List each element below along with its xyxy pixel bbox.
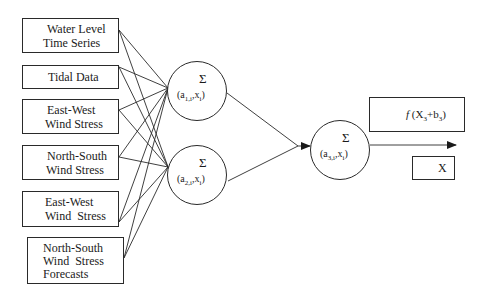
output-label: X [438, 161, 447, 175]
sigma-symbol: Σ [199, 155, 207, 171]
input-tidal-data: Tidal Data [22, 65, 119, 89]
output-node: Σ (a3,i,xi) [310, 120, 370, 180]
sigma-symbol: Σ [342, 130, 350, 146]
input-label: East-West [47, 103, 95, 117]
input-label: Forecasts [43, 267, 88, 281]
hidden-node-1: Σ (a1,i,xi) [167, 61, 227, 121]
input-label: Wind Stress [45, 209, 106, 223]
hidden-node-2: Σ (a2,i,xi) [167, 145, 227, 205]
input-east-west-wind-stress-2: East-West Wind Stress [22, 191, 119, 227]
input-north-south-wind-stress: North-South Wind Stress [22, 145, 119, 180]
activation-function-box: f (X3+b3) [369, 97, 465, 132]
sigma-symbol: Σ [199, 71, 207, 87]
input-water-level: Water Level Time Series [22, 18, 119, 53]
input-label: Wind Stress [45, 117, 103, 131]
input-east-west-wind-stress: East-West Wind Stress [22, 99, 119, 134]
input-label: North-South [47, 149, 107, 163]
input-label: East-West [45, 195, 93, 209]
weight-label: (a3,i,xi) [320, 148, 348, 162]
input-north-south-wind-stress-forecasts: North-South Wind Stress Forecasts [27, 237, 124, 284]
activation-label: f (X3+b3) [406, 107, 446, 126]
input-label: Time Series [43, 36, 100, 50]
input-label: Water Level [47, 22, 106, 36]
input-label: Wind Stress [43, 254, 104, 268]
input-label: North-South [43, 241, 103, 255]
weight-label: (a2,i,xi) [177, 173, 205, 187]
weight-label: (a1,i,xi) [177, 89, 205, 103]
output-box: X [412, 156, 455, 180]
input-label: Tidal Data [48, 70, 99, 84]
input-label: Wind Stress [46, 163, 104, 177]
